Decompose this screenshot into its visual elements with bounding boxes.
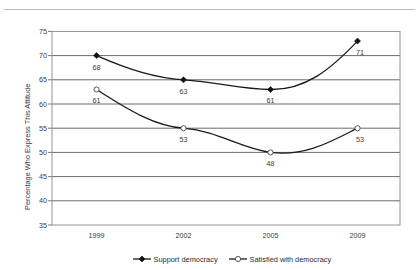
chart-legend: Support democracy Satisfied with democra… xyxy=(133,255,332,264)
x-tick-label: 2005 xyxy=(263,231,279,240)
data-point-marker xyxy=(94,53,100,59)
data-point-label: 53 xyxy=(180,135,188,144)
y-axis-tick-marks xyxy=(48,31,52,225)
data-point-marker xyxy=(181,77,187,83)
data-point-label: 71 xyxy=(356,48,364,57)
line-chart: Percentage Who Express This Attitude 35 … xyxy=(0,0,419,270)
x-tick-label: 1999 xyxy=(89,231,105,240)
data-point-label: 61 xyxy=(267,96,275,105)
series-line-support-democracy xyxy=(97,41,358,89)
series-satisfied-with-democracy: 61 53 48 53 xyxy=(93,87,365,168)
x-axis-tick-labels: 1999 2002 2005 2009 xyxy=(89,231,366,240)
data-point-marker xyxy=(268,150,273,155)
series-line-satisfied-with-democracy xyxy=(97,90,358,154)
data-point-label: 48 xyxy=(267,159,275,168)
data-point-marker xyxy=(355,126,360,131)
y-tick-label: 45 xyxy=(39,172,47,181)
y-tick-label: 65 xyxy=(39,75,47,84)
x-tick-label: 2002 xyxy=(176,231,192,240)
y-axis-title: Percentage Who Express This Attitude xyxy=(23,84,32,210)
legend-item-support-democracy[interactable]: Support democracy xyxy=(133,255,218,264)
y-tick-label: 55 xyxy=(39,124,47,133)
chart-figure: Percentage Who Express This Attitude 35 … xyxy=(0,0,419,270)
y-tick-label: 70 xyxy=(39,51,47,60)
data-point-label: 63 xyxy=(180,87,188,96)
series-support-democracy: 68 63 61 71 xyxy=(93,38,365,105)
legend-item-satisfied-with-democracy[interactable]: Satisfied with democracy xyxy=(229,255,332,264)
y-tick-label: 40 xyxy=(39,196,47,205)
data-point-marker xyxy=(268,87,274,93)
data-point-label: 61 xyxy=(93,96,101,105)
data-point-marker xyxy=(94,87,99,92)
y-tick-label: 50 xyxy=(39,148,47,157)
data-point-label: 53 xyxy=(356,135,364,144)
data-point-marker xyxy=(181,126,186,131)
y-axis-title-text: Percentage Who Express This Attitude xyxy=(23,84,32,210)
legend-label: Support democracy xyxy=(154,255,218,264)
legend-label: Satisfied with democracy xyxy=(250,255,332,264)
y-axis-tick-labels: 35 40 45 50 55 60 65 70 75 xyxy=(39,27,47,230)
y-tick-label: 35 xyxy=(39,221,47,230)
data-point-label: 68 xyxy=(93,63,101,72)
y-tick-label: 75 xyxy=(39,27,47,36)
gridlines xyxy=(52,56,400,201)
x-tick-label: 2009 xyxy=(350,231,366,240)
y-tick-label: 60 xyxy=(39,100,47,109)
